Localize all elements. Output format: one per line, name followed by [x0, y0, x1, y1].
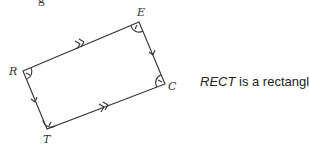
vertex-label-c: C: [168, 80, 177, 93]
vertex-label-r: R: [8, 65, 17, 78]
rectangle-rect: [23, 22, 165, 129]
caption-shape-name: RECT: [200, 74, 235, 89]
caption-text: is a rectangle.: [235, 74, 309, 89]
vertex-label-e: E: [136, 6, 145, 19]
vertex-label-t: T: [43, 133, 52, 146]
angle-mark-t: [43, 120, 55, 127]
caption: RECT is a rectangle.: [200, 74, 309, 89]
double-arrow-mark-tc: [99, 102, 108, 112]
